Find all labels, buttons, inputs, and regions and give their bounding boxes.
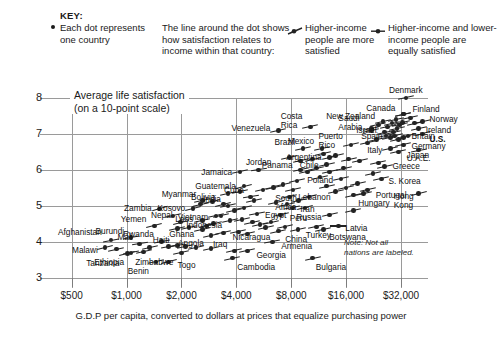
dot-icon xyxy=(361,191,366,196)
country-label: HongKong xyxy=(394,192,414,210)
country-label: Turkey xyxy=(306,231,331,240)
country-label: Haiti xyxy=(153,235,170,244)
dot-icon xyxy=(209,233,214,238)
dot-icon xyxy=(408,116,413,121)
dot-icon xyxy=(314,225,319,230)
country-label: Japan xyxy=(406,151,429,160)
dot-icon xyxy=(385,125,390,130)
country-label: Zambia xyxy=(124,203,152,212)
x-tick-mark xyxy=(127,278,128,287)
dot-icon xyxy=(401,143,406,148)
dot-icon xyxy=(308,125,313,130)
dot-icon xyxy=(382,164,387,169)
dot-icon xyxy=(230,256,235,261)
dot-icon xyxy=(301,146,306,151)
country-label: Malawi xyxy=(72,246,98,255)
x-tick-mark xyxy=(181,278,182,287)
x-tick-mark xyxy=(236,278,237,287)
dot-icon xyxy=(232,249,237,254)
dot-icon xyxy=(376,161,381,166)
dot-icon xyxy=(396,150,401,155)
legend-line-text1: The line around the dot shows xyxy=(162,22,289,33)
country-label: Yemen xyxy=(121,214,147,223)
dot-icon xyxy=(270,240,275,245)
y-axis-title-line2: (on a 10-point scale) xyxy=(74,102,185,115)
country-label: Canada xyxy=(366,104,395,113)
dot-icon xyxy=(376,123,381,128)
x-gridline xyxy=(127,98,128,288)
x-tick-label: $16,000 xyxy=(328,290,364,301)
country-label: Cuba xyxy=(224,186,244,195)
legend-more-line2: people are xyxy=(305,34,350,45)
x-tick-mark xyxy=(291,278,292,287)
country-label: PuertoRico xyxy=(318,132,342,150)
dot-with-rising-line-icon xyxy=(287,26,303,36)
y-tick-label: 8 xyxy=(20,91,42,103)
y-tick-label: 3 xyxy=(20,271,42,283)
legend-more-line1: Higher-income xyxy=(305,22,367,33)
dot-icon xyxy=(51,25,55,29)
dot-icon xyxy=(179,251,184,256)
y-gridline xyxy=(40,170,428,171)
country-label: Nicaragua xyxy=(232,233,270,242)
dot-icon xyxy=(166,244,171,249)
dot-icon xyxy=(281,182,286,187)
x-tick-mark xyxy=(72,278,73,287)
dot-icon xyxy=(388,146,393,151)
dot-icon xyxy=(351,193,356,198)
country-label: U.S. xyxy=(430,135,446,144)
country-label: Hungary xyxy=(358,199,389,208)
country-label: Georgia xyxy=(256,251,286,260)
country-label: Bulgaria xyxy=(316,263,346,272)
dot-icon xyxy=(137,242,142,247)
country-label: Poland xyxy=(307,176,333,185)
x-tick-label: $2,000 xyxy=(166,290,197,301)
dot-icon xyxy=(152,224,157,229)
legend-item-line-explainer: The line around the dot shows how satisf… xyxy=(162,22,297,57)
x-axis-title: G.D.P per capita, converted to dollars a… xyxy=(76,310,407,321)
dot-icon xyxy=(296,227,301,232)
country-label: S. Korea xyxy=(388,177,420,186)
country-label: Greece xyxy=(393,162,420,171)
dot-icon xyxy=(327,170,332,175)
legend-line-text3: income within that country: xyxy=(162,45,274,56)
country-label: Ethiopia xyxy=(94,257,124,266)
y-axis-title: Average life satisfaction (on a 10-point… xyxy=(70,89,189,114)
country-label: Venezuela xyxy=(232,124,271,133)
dot-icon xyxy=(333,189,338,194)
dot-icon xyxy=(351,208,356,213)
legend-item-more-satisfied: Higher-income people are more satisfied xyxy=(305,22,375,57)
country-label: Angola xyxy=(178,238,204,247)
country-label: Chile xyxy=(300,160,319,169)
y-tick-label: 4 xyxy=(20,235,42,247)
dot-with-flat-line-icon xyxy=(370,26,386,36)
dot-icon xyxy=(416,191,421,196)
country-label: Armenia xyxy=(281,242,312,251)
y-tick-label: 5 xyxy=(20,199,42,211)
legend-item-equally-satisfied: Higher-income and lower-income people ar… xyxy=(388,22,498,57)
chart-legend: KEY: Each dot represents one country The… xyxy=(0,0,500,70)
dot-icon xyxy=(355,181,360,186)
country-label: Mexico xyxy=(288,137,314,146)
country-label: Russia xyxy=(296,213,321,222)
country-label: Benin xyxy=(128,266,149,275)
plot-area: MalawiTanzaniaAfghanistanBurundiYemenZam… xyxy=(54,98,428,278)
y-tick-label: 6 xyxy=(20,163,42,175)
life-satisfaction-scatter-chart: KEY: Each dot represents one country The… xyxy=(0,0,500,344)
dot-icon xyxy=(103,245,108,250)
country-label: Botswana xyxy=(329,233,365,242)
country-label: Nepal xyxy=(151,211,173,220)
dot-icon xyxy=(263,225,268,230)
country-label: SouthAfrica xyxy=(275,194,297,212)
country-label: Norway xyxy=(430,115,458,124)
x-gridline xyxy=(72,98,73,288)
x-tick-label: $32,000 xyxy=(383,290,419,301)
x-tick-label: $4,000 xyxy=(221,290,252,301)
dot-icon xyxy=(252,198,257,203)
country-label: CostaRica xyxy=(281,112,303,130)
x-tick-label: $500 xyxy=(61,290,83,301)
country-label: Jamaica xyxy=(201,167,232,176)
x-tick-mark xyxy=(401,278,402,287)
country-label: Togo xyxy=(178,260,196,269)
legend-equal-line1: Higher-income and xyxy=(388,22,468,33)
